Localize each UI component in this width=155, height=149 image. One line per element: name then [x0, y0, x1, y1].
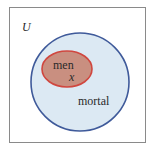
element-x-label: x — [68, 70, 75, 84]
venn-diagram: U men x mortal — [0, 0, 155, 149]
mortal-set-label: mortal — [78, 94, 110, 108]
universe-label: U — [22, 20, 32, 34]
